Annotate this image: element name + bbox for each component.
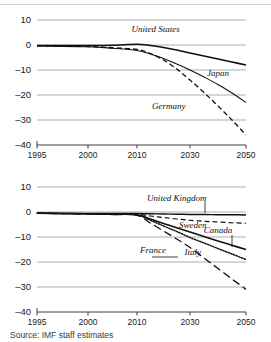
x-axis-label: 2030 bbox=[181, 150, 200, 160]
y-axis-label: 10 bbox=[20, 14, 31, 25]
chart-panel-top: 100–10–20–30–4019952000201020302050Unite… bbox=[0, 8, 271, 160]
x-axis-label: 2010 bbox=[128, 317, 147, 327]
figure-container: 100–10–20–30–4019952000201020302050Unite… bbox=[0, 0, 271, 342]
line-chart-bottom: 100–10–20–30–4019952000201020302050Unite… bbox=[0, 175, 271, 327]
series-label-united-kingdom: United Kingdom bbox=[147, 193, 207, 203]
y-axis-label: –20 bbox=[15, 256, 31, 267]
y-axis-label: –20 bbox=[15, 89, 31, 100]
series-line-united-states bbox=[37, 44, 246, 65]
series-label-france: France bbox=[139, 245, 166, 255]
series-label-japan: Japan bbox=[207, 68, 229, 78]
x-axis-label: 2030 bbox=[181, 317, 200, 327]
x-axis-label: 2000 bbox=[79, 317, 98, 327]
line-chart-top: 100–10–20–30–4019952000201020302050Unite… bbox=[0, 8, 271, 160]
x-axis-label: 1995 bbox=[28, 317, 47, 327]
x-axis-label: 2010 bbox=[128, 150, 147, 160]
y-axis-label: –40 bbox=[15, 139, 31, 150]
source-note: Source: IMF staff estimates bbox=[10, 330, 113, 340]
series-label-italy: Italy bbox=[184, 247, 202, 257]
x-axis-label: 1995 bbox=[28, 150, 47, 160]
series-line-germany bbox=[37, 46, 246, 135]
y-axis-label: –10 bbox=[15, 64, 31, 75]
series-label-canada: Canada bbox=[204, 225, 233, 235]
x-axis-label: 2050 bbox=[237, 317, 256, 327]
top-rule bbox=[0, 4, 271, 5]
y-axis-label: 0 bbox=[26, 206, 31, 217]
chart-panel-bottom: 100–10–20–30–4019952000201020302050Unite… bbox=[0, 175, 271, 327]
x-axis-label: 2000 bbox=[79, 150, 98, 160]
y-axis-label: 0 bbox=[26, 39, 31, 50]
y-axis-label: 10 bbox=[20, 181, 31, 192]
y-axis-label: –30 bbox=[15, 281, 31, 292]
y-axis-label: –40 bbox=[15, 306, 31, 317]
x-axis-label: 2050 bbox=[237, 150, 256, 160]
series-label-united-states: United States bbox=[131, 24, 180, 34]
y-axis-label: –30 bbox=[15, 114, 31, 125]
series-label-germany: Germany bbox=[152, 101, 186, 111]
y-axis-label: –10 bbox=[15, 231, 31, 242]
